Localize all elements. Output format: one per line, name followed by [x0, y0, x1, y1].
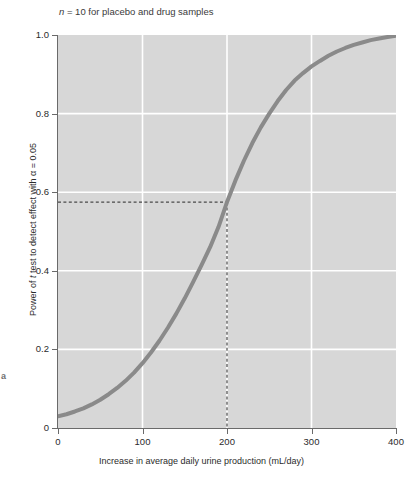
plot-canvas	[58, 35, 396, 428]
y-axis-label-italic-token: t	[28, 275, 38, 278]
y-axis-label-prefix: Power of	[28, 278, 38, 316]
x-tick-0	[58, 429, 59, 434]
x-tick-200	[227, 429, 228, 434]
x-ticklabel-0: 0	[38, 437, 78, 447]
y-tick-0.6	[52, 192, 58, 193]
x-ticklabel-200: 200	[207, 437, 247, 447]
chart-title-rest: = 10 for placebo and drug samples	[64, 6, 213, 17]
y-axis-label: Power of t test to detect effect with α …	[28, 80, 39, 380]
x-ticklabel-300: 300	[292, 437, 332, 447]
y-tick-1.0	[52, 35, 58, 36]
x-tick-100	[143, 429, 144, 434]
y-ticklabel-0: 0	[44, 423, 49, 433]
y-axis-line	[57, 35, 58, 429]
x-tick-400	[396, 429, 397, 434]
y-ticklabel-1.0: 1.0	[36, 30, 49, 40]
panel-letter: a	[1, 371, 6, 381]
y-axis-label-suffix: test to detect effect with α = 0.05	[28, 143, 38, 275]
x-ticklabel-100: 100	[123, 437, 163, 447]
plot-area	[58, 35, 396, 428]
y-tick-0.4	[52, 271, 58, 272]
x-tick-300	[312, 429, 313, 434]
x-ticklabel-400: 400	[376, 437, 409, 447]
y-tick-0.8	[52, 114, 58, 115]
y-tick-0.2	[52, 349, 58, 350]
chart-title: n = 10 for placebo and drug samples	[59, 6, 214, 18]
x-axis-label: Increase in average daily urine producti…	[0, 456, 403, 467]
